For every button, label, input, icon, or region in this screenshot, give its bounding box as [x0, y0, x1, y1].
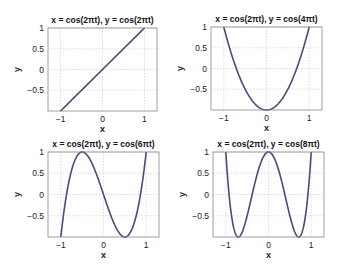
x-axis-label: x — [264, 123, 269, 133]
y-tick-label: 0 — [39, 65, 44, 75]
x-tick-label: −1 — [221, 240, 231, 250]
x-axis-label: x — [101, 250, 106, 260]
x-tick-label: 0 — [266, 240, 271, 250]
x-tick-label: 1 — [144, 240, 149, 250]
plot-panel-1: x = cos(2πt), y = cos(2πt)−10110.50−0.5x… — [12, 15, 157, 134]
y-tick-label: 0.5 — [32, 168, 44, 178]
y-tick-label: −0.5 — [27, 211, 44, 221]
x-tick-label: 1 — [142, 114, 147, 124]
y-tick-label: 0 — [202, 64, 207, 74]
x-tick-label: −1 — [219, 113, 229, 123]
x-tick-label: −1 — [56, 114, 66, 124]
y-tick-label: 1 — [202, 22, 207, 32]
plot-panel-2: x = cos(2πt), y = cos(4πt)−10110.50−0.5x… — [175, 14, 322, 133]
y-tick-label: 1 — [204, 147, 209, 157]
plot-panel-4: x = cos(2πt), y = cos(8πt)−10110.50−0.5x… — [177, 139, 324, 260]
y-tick-label: 0 — [39, 190, 44, 200]
y-tick-label: 1 — [39, 147, 44, 157]
x-axis-label: x — [266, 250, 271, 260]
y-axis-label: y — [175, 66, 185, 71]
y-axis-label: y — [12, 67, 22, 72]
x-tick-label: 1 — [307, 113, 312, 123]
x-tick-label: 0 — [100, 114, 105, 124]
y-tick-label: −0.5 — [27, 85, 44, 95]
plot-panel-3: x = cos(2πt), y = cos(6πt)−10110.50−0.5x… — [12, 139, 159, 260]
y-tick-label: 1 — [39, 23, 44, 33]
plot-title: x = cos(2πt), y = cos(2πt) — [51, 15, 153, 25]
figure: x = cos(2πt), y = cos(2πt)−10110.50−0.5x… — [0, 0, 342, 272]
y-tick-label: 0 — [204, 190, 209, 200]
y-axis-label: y — [177, 192, 187, 197]
plot-title: x = cos(2πt), y = cos(8πt) — [217, 139, 319, 149]
x-tick-label: 0 — [101, 240, 106, 250]
x-tick-label: 0 — [264, 113, 269, 123]
x-tick-label: 1 — [309, 240, 314, 250]
plot-title: x = cos(2πt), y = cos(4πt) — [215, 14, 317, 24]
y-tick-label: 0.5 — [32, 44, 44, 54]
y-axis-label: y — [12, 192, 22, 197]
y-tick-label: 0.5 — [195, 43, 207, 53]
y-tick-label: −0.5 — [192, 211, 209, 221]
x-axis-label: x — [100, 124, 105, 134]
y-tick-label: −0.5 — [190, 84, 207, 94]
plot-title: x = cos(2πt), y = cos(6πt) — [52, 139, 154, 149]
x-tick-label: −1 — [56, 240, 66, 250]
y-tick-label: 0.5 — [197, 168, 209, 178]
